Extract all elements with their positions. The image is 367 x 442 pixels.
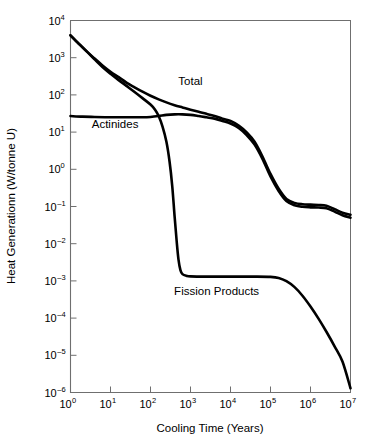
svg-text:1: 1 [112,396,116,405]
svg-text:10: 10 [48,126,60,138]
svg-text:7: 7 [352,396,356,405]
svg-text:2: 2 [60,87,64,96]
svg-text:4: 4 [60,13,64,22]
svg-text:10: 10 [44,275,56,287]
svg-text:0: 0 [72,396,76,405]
svg-text:10: 10 [99,398,111,410]
svg-text:10: 10 [44,387,56,399]
svg-text:10: 10 [59,398,71,410]
y-axis-title: Heat Generationn (W/tonne U) [5,128,17,284]
svg-text:10: 10 [299,398,311,410]
svg-text:0: 0 [60,161,64,170]
svg-text:–2: –2 [57,236,65,245]
svg-text:3: 3 [192,396,196,405]
svg-text:10: 10 [339,398,351,410]
x-axis-title: Cooling Time (Years) [157,422,264,434]
svg-text:10: 10 [44,312,56,324]
chart-background [0,0,367,442]
svg-text:10: 10 [48,89,60,101]
svg-text:10: 10 [48,52,60,64]
svg-text:5: 5 [272,396,276,405]
svg-text:2: 2 [152,396,156,405]
chart-figure: 100101102103104105106107 104103102101100… [0,0,367,442]
svg-text:10: 10 [44,349,56,361]
svg-text:10: 10 [48,163,60,175]
svg-text:–5: –5 [57,347,65,356]
svg-text:10: 10 [179,398,191,410]
svg-text:–6: –6 [57,385,65,394]
svg-text:–4: –4 [57,310,65,319]
svg-text:10: 10 [259,398,271,410]
svg-text:10: 10 [44,201,56,213]
svg-text:–1: –1 [57,199,65,208]
svg-text:10: 10 [139,398,151,410]
svg-text:10: 10 [44,238,56,250]
svg-text:10: 10 [48,15,60,27]
series-label-fission-products: Fission Products [174,285,259,297]
svg-text:10: 10 [219,398,231,410]
series-label-actinides: Actinides [92,118,139,130]
svg-text:–3: –3 [57,273,65,282]
svg-text:3: 3 [60,50,64,59]
svg-text:1: 1 [60,124,64,133]
series-label-total: Total [178,75,202,87]
heat-generation-log-log-chart: 100101102103104105106107 104103102101100… [0,0,367,442]
svg-text:4: 4 [232,396,236,405]
svg-text:6: 6 [312,396,316,405]
